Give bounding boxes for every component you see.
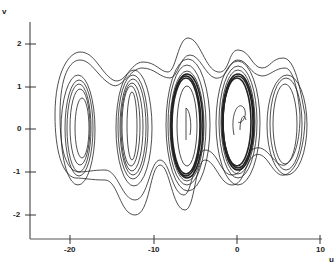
x-tick-label: 0 [235, 246, 239, 254]
y-tick-label: 2 [17, 40, 21, 48]
y-tick-label: -1 [13, 168, 20, 176]
trajectories [55, 38, 307, 215]
x-tick-label: 10 [316, 246, 325, 254]
y-tick-label: -2 [13, 211, 20, 219]
y-tick-label: 1 [17, 83, 21, 91]
x-axis-label: u [329, 256, 334, 264]
x-tick-label: -20 [64, 246, 76, 254]
y-axis-label: v [2, 8, 6, 16]
y-tick-label: 0 [17, 125, 21, 133]
phase-plot [0, 0, 336, 269]
x-tick-label: -10 [148, 246, 160, 254]
